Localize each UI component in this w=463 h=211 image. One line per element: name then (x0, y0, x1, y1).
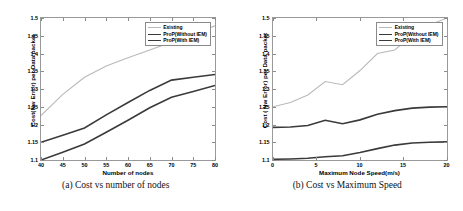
x-tick-label: 5 (315, 162, 318, 168)
y-tick-mark (444, 36, 447, 37)
legend-item[interactable]: Existing (148, 25, 207, 30)
legend-label: ProP(Without IEM) (395, 32, 439, 37)
x-tick-mark (316, 157, 317, 160)
y-axis-title-holder-a: Cost(Nw Error) per Data packet (14, 17, 28, 161)
x-tick-mark (106, 157, 107, 160)
y-tick-mark (212, 89, 215, 90)
x-tick-label: 55 (103, 162, 109, 168)
y-tick-label: 1.4 (31, 51, 39, 57)
legend-line-swatch (379, 34, 392, 35)
y-tick-mark (444, 89, 447, 90)
legend-a: ExistingProP(Without IEM)ProP(With IEM) (145, 22, 211, 46)
y-tick-label: 1.2 (262, 122, 270, 128)
y-tick-label: 1.2 (31, 122, 39, 128)
y-tick-mark (41, 107, 44, 108)
x-tick-label: 80 (212, 162, 218, 168)
x-tick-mark (172, 157, 173, 160)
y-axis-title-holder-b: Cost ( Nw Error) per Data packet (246, 17, 260, 161)
y-tick-mark (212, 160, 215, 161)
plot-a: Cost(Nw Error) per Data packet ExistingP… (0, 0, 232, 178)
y-axis-title-a: Cost(Nw Error) per Data packet (29, 9, 36, 153)
y-tick-mark (212, 71, 215, 72)
x-tick-mark (273, 157, 274, 160)
y-tick-mark (41, 71, 44, 72)
y-tick-mark (273, 36, 276, 37)
series-line (273, 107, 447, 128)
figure-caption-b: (b) Cost vs Maximum Speed (232, 180, 463, 190)
y-tick-label: 1.25 (28, 104, 39, 110)
x-tick-mark (403, 18, 404, 21)
legend-line-swatch (148, 40, 161, 41)
y-tick-label: 1.15 (28, 139, 39, 145)
x-tick-label: 20 (444, 162, 450, 168)
figure-panel-a: Cost(Nw Error) per Data packet ExistingP… (0, 0, 232, 211)
legend-label: ProP(With IEM) (395, 38, 431, 43)
y-tick-mark (212, 36, 215, 37)
x-axis-title-a: Number of nodes (40, 169, 216, 176)
series-line (41, 85, 215, 160)
y-tick-mark (41, 142, 44, 143)
x-tick-mark (41, 157, 42, 160)
legend-item[interactable]: ProP(Without IEM) (148, 32, 207, 37)
legend-item[interactable]: ProP(With IEM) (379, 38, 438, 43)
y-tick-mark (212, 107, 215, 108)
x-axis-title-b: Maximum Node Speed(m/s) (272, 169, 448, 176)
legend-line-swatch (148, 34, 161, 35)
x-tick-mark (106, 18, 107, 21)
y-tick-mark (212, 142, 215, 143)
y-tick-label: 1.15 (259, 139, 270, 145)
legend-item[interactable]: Existing (379, 25, 438, 30)
y-tick-mark (41, 160, 44, 161)
legend-label: Existing (163, 25, 182, 30)
y-tick-mark (273, 125, 276, 126)
y-tick-mark (273, 142, 276, 143)
y-tick-mark (41, 89, 44, 90)
x-tick-mark (316, 18, 317, 21)
x-tick-mark (447, 18, 448, 21)
figure-panel-b: Cost ( Nw Error) per Data packet Existin… (232, 0, 463, 211)
x-tick-mark (150, 18, 151, 21)
x-tick-mark (63, 157, 64, 160)
y-tick-label: 1.1 (31, 157, 39, 163)
x-tick-mark (193, 18, 194, 21)
y-tick-label: 1.35 (259, 68, 270, 74)
y-tick-mark (444, 71, 447, 72)
figure-row: Cost(Nw Error) per Data packet ExistingP… (0, 0, 463, 211)
x-tick-mark (403, 157, 404, 160)
x-tick-label: 15 (400, 162, 406, 168)
y-tick-label: 1.3 (31, 86, 39, 92)
y-tick-label: 1.25 (259, 104, 270, 110)
y-tick-mark (273, 160, 276, 161)
x-tick-mark (273, 18, 274, 21)
x-tick-mark (41, 18, 42, 21)
x-tick-label: 65 (147, 162, 153, 168)
x-tick-mark (215, 18, 216, 21)
x-tick-mark (85, 157, 86, 160)
x-tick-mark (128, 157, 129, 160)
x-tick-label: 40 (38, 162, 44, 168)
x-tick-label: 50 (82, 162, 88, 168)
x-tick-mark (447, 157, 448, 160)
x-tick-mark (150, 157, 151, 160)
legend-item[interactable]: ProP(With IEM) (148, 38, 207, 43)
y-tick-label: 1.1 (262, 157, 270, 163)
legend-b: ExistingProP(Without IEM)ProP(With IEM) (376, 22, 442, 46)
y-tick-mark (444, 125, 447, 126)
y-tick-label: 1.5 (262, 15, 270, 21)
y-tick-mark (41, 125, 44, 126)
y-tick-mark (444, 142, 447, 143)
x-tick-label: 70 (169, 162, 175, 168)
y-tick-label: 1.45 (28, 33, 39, 39)
y-tick-mark (444, 54, 447, 55)
y-tick-mark (444, 107, 447, 108)
x-tick-mark (63, 18, 64, 21)
legend-item[interactable]: ProP(Without IEM) (379, 32, 438, 37)
x-tick-mark (128, 18, 129, 21)
plot-area-a: ExistingProP(Without IEM)ProP(With IEM) … (40, 17, 216, 161)
plot-b: Cost ( Nw Error) per Data packet Existin… (232, 0, 463, 178)
y-tick-label: 1.35 (28, 68, 39, 74)
legend-label: Existing (395, 25, 414, 30)
legend-line-swatch (379, 40, 392, 41)
y-tick-mark (41, 36, 44, 37)
x-tick-mark (193, 157, 194, 160)
